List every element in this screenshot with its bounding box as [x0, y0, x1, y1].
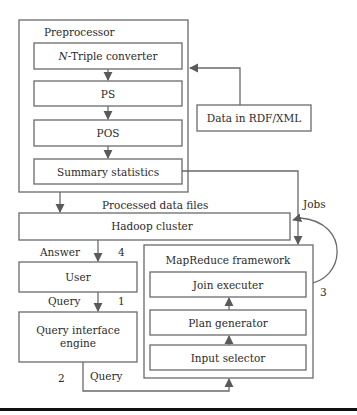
jobs-label: Jobs — [302, 198, 326, 210]
query-label-2: Query — [90, 370, 123, 382]
query-label-1: Query — [48, 295, 81, 307]
join-executer-label: Join executer — [192, 279, 264, 291]
summary-statistics-label: Summary statistics — [57, 166, 159, 178]
query-engine-label-line2: engine — [60, 337, 96, 349]
ntriple-converter-label: N-Triple converter — [58, 50, 159, 62]
mapreduce-group: MapReduce framework Join executer Plan g… — [144, 245, 313, 378]
mapreduce-framework-title: MapReduce framework — [166, 254, 291, 266]
arrow-data-to-preprocessor — [190, 68, 240, 105]
user-label: User — [65, 271, 91, 283]
processed-data-files-label: Processed data files — [102, 199, 208, 211]
query-engine-label-line1: Query interface — [36, 324, 120, 336]
input-selector-label: Input selector — [191, 352, 267, 364]
preprocessor-group: Preprocessor N-Triple converter PS POS S… — [19, 20, 188, 192]
answer-label: Answer — [39, 246, 81, 258]
step-number-3: 3 — [320, 286, 327, 298]
plan-generator-label: Plan generator — [188, 317, 269, 329]
ps-label: PS — [101, 88, 115, 100]
ntriple-suffix: -Triple converter — [68, 50, 159, 62]
pos-label: POS — [97, 127, 120, 139]
bottom-rule — [0, 408, 357, 411]
preprocessor-title: Preprocessor — [44, 26, 116, 38]
data-rdf-xml-label: Data in RDF/XML — [207, 112, 301, 124]
step-number-4: 4 — [118, 246, 125, 258]
step-number-1: 1 — [118, 295, 125, 307]
architecture-diagram: Preprocessor N-Triple converter PS POS S… — [0, 0, 357, 415]
step-number-2: 2 — [58, 372, 65, 384]
hadoop-cluster-label: Hadoop cluster — [111, 220, 194, 232]
